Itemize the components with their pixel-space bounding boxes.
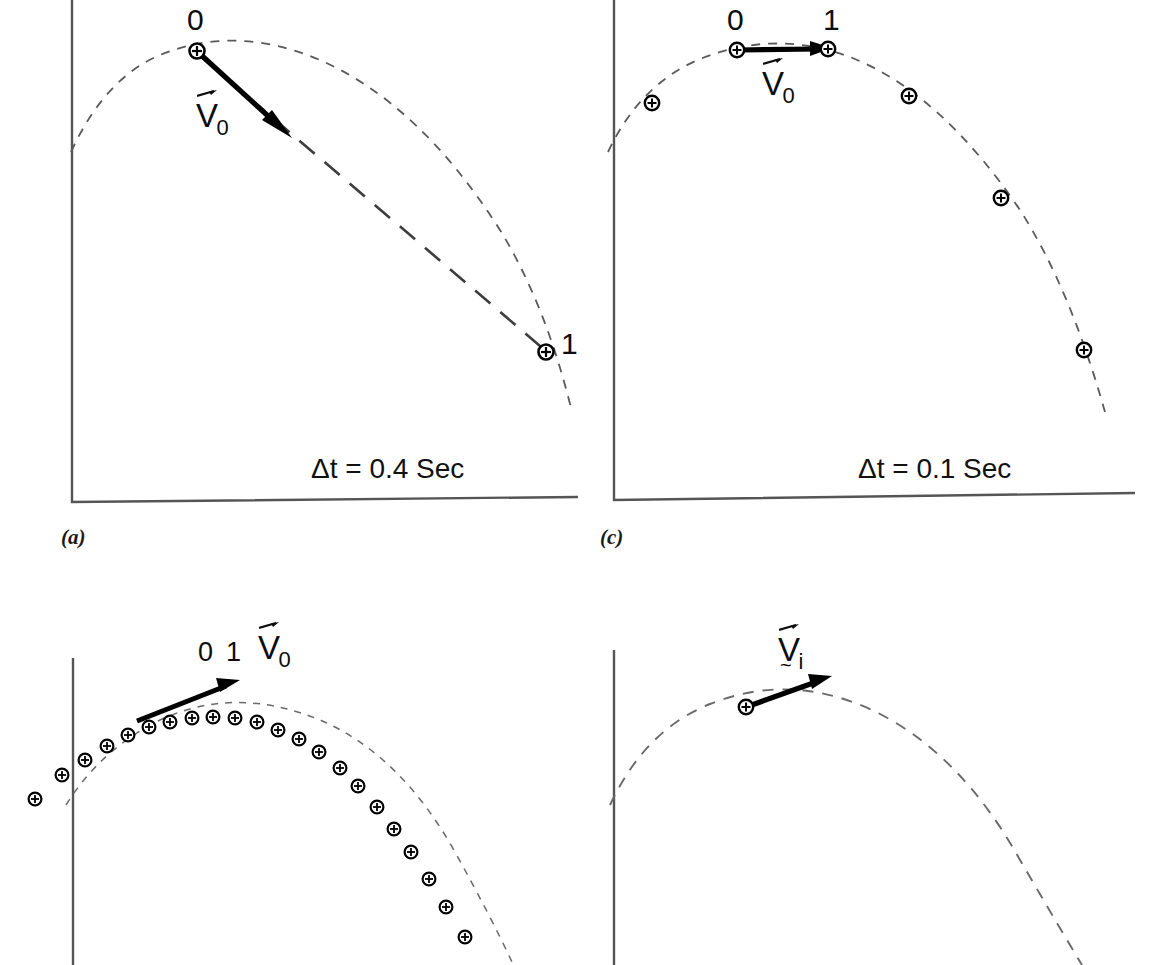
- panel-b-marker: [79, 754, 92, 767]
- panel-c-marker: [645, 96, 659, 110]
- panel-b-vector-label: V0: [258, 622, 292, 664]
- panel-c-marker-group: [645, 42, 1091, 357]
- panel-a-point-label-1: 1: [561, 329, 578, 359]
- panel-a-vector-stack: V0: [196, 90, 230, 132]
- panel-d-vector-stack: Vi ~: [778, 624, 804, 666]
- panel-d-trajectory: [610, 689, 1082, 965]
- panel-b-marker: [251, 716, 264, 729]
- panel-b-marker: [423, 873, 436, 886]
- panel-a-marker-0: [190, 44, 205, 59]
- vector-arrow-icon: [763, 57, 783, 67]
- panel-c-axes: [614, 0, 1135, 500]
- panel-c: 0 1 V0 Δt = 0.1 Sec (c): [600, 0, 1150, 560]
- panel-b-marker: [229, 712, 242, 725]
- panel-c-marker: [902, 89, 916, 103]
- panel-b-marker: [186, 712, 199, 725]
- panel-b-vector-subscript: 0: [279, 647, 291, 672]
- panel-b-marker: [388, 823, 401, 836]
- panel-b-marker: [29, 793, 42, 806]
- panel-b-marker: [122, 729, 135, 742]
- panel-b-marker: [56, 769, 69, 782]
- panel-b-vector-stack: V0: [258, 622, 292, 664]
- panel-a-dt-label: Δt = 0.4 Sec: [311, 455, 464, 483]
- panel-d-vector-tilde: ~: [780, 655, 792, 675]
- panel-d-plot: [600, 600, 1150, 965]
- panel-c-trajectory: [608, 43, 1105, 412]
- panel-a-vector-subscript: 0: [217, 115, 229, 140]
- panel-b-marker: [101, 740, 114, 753]
- panel-a-trajectory: [71, 41, 572, 412]
- panel-c-marker: [994, 191, 1008, 205]
- panel-b-trajectory: [66, 703, 512, 963]
- panel-b: 0 1 V0: [0, 600, 600, 965]
- panel-a-axes: [72, 0, 578, 502]
- panel-b-marker: [334, 762, 347, 775]
- panel-b-marker: [405, 846, 418, 859]
- panel-a-marker-1: [539, 345, 554, 360]
- panel-c-caption: (c): [600, 527, 623, 548]
- panel-d: Vi ~: [600, 600, 1150, 965]
- panel-c-vector-subscript: 0: [783, 83, 795, 108]
- panel-d-marker: [739, 700, 753, 714]
- panel-c-point-label-1: 1: [823, 5, 840, 35]
- panel-b-plot: [0, 600, 600, 965]
- panel-b-marker: [293, 733, 306, 746]
- panel-b-marker: [272, 724, 285, 737]
- panel-c-marker: [1077, 343, 1091, 357]
- panel-b-marker: [207, 711, 220, 724]
- panel-a-point-label-0: 0: [187, 5, 204, 35]
- panel-a-caption: (a): [61, 527, 86, 548]
- panel-b-marker: [459, 931, 472, 944]
- panel-d-vector-subscript: i: [799, 649, 804, 674]
- vector-arrow-icon: [259, 621, 279, 631]
- panel-b-marker: [352, 780, 365, 793]
- panel-d-vector-label: Vi ~: [778, 624, 804, 666]
- panel-c-marker: [821, 42, 835, 56]
- panel-c-vector-stack: V0: [762, 58, 796, 100]
- panel-d-velocity-arrow: [749, 674, 832, 706]
- panel-c-dt-label: Δt = 0.1 Sec: [858, 455, 1011, 483]
- panel-c-marker: [730, 43, 744, 57]
- panel-b-marker: [164, 716, 177, 729]
- panel-c-vector-label: V0: [762, 58, 796, 100]
- panel-b-marker: [143, 721, 156, 734]
- figure-root: 0 1 V0 Δt = 0.4 Sec (a): [0, 0, 1150, 965]
- panel-b-label-zero: 0: [198, 639, 213, 666]
- panel-a: 0 1 V0 Δt = 0.4 Sec (a): [0, 0, 600, 560]
- panel-a-plot: [0, 0, 600, 560]
- vector-arrow-icon: [779, 623, 799, 633]
- panel-b-marker: [371, 801, 384, 814]
- panel-b-marker: [313, 746, 326, 759]
- panel-b-marker-group: [29, 711, 472, 944]
- panel-a-vector-label: V0: [196, 90, 230, 132]
- vector-arrow-icon: [197, 89, 217, 99]
- panel-b-label-one: 1: [226, 639, 241, 666]
- panel-b-marker: [440, 901, 453, 914]
- panel-c-point-label-0: 0: [727, 5, 744, 35]
